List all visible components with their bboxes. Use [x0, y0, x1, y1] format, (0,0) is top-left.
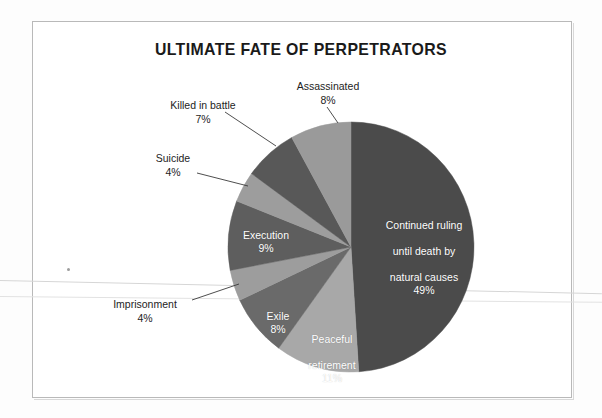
- slice-label-exile: Exile 8%: [252, 297, 304, 349]
- leader-line-imprisonment: [192, 284, 239, 300]
- slice-label-execution-line1: Execution: [243, 229, 289, 241]
- callout-label-imprisonment-name: Imprisonment: [113, 298, 177, 310]
- slice-label-peaceful-retirement: Peaceful retirement 11%: [293, 320, 371, 398]
- slice-value-execution: 9%: [228, 242, 304, 255]
- callout-label-assassinated: Assassinated 8%: [282, 80, 374, 107]
- callout-label-suicide-name: Suicide: [156, 152, 190, 164]
- slice-label-continued-ruling-line3: natural causes: [390, 271, 458, 283]
- callout-label-killed-in-battle: Killed in battle 7%: [147, 99, 259, 126]
- callout-value-imprisonment: 4%: [92, 312, 198, 326]
- callout-label-suicide: Suicide 4%: [132, 152, 214, 179]
- callout-label-imprisonment: Imprisonment 4%: [92, 298, 198, 325]
- slice-label-peaceful-retirement-line1: Peaceful: [312, 333, 353, 345]
- slice-label-continued-ruling-line1: Continued ruling: [386, 219, 462, 231]
- slice-label-peaceful-retirement-line2: retirement: [308, 359, 355, 371]
- slice-label-continued-ruling: Continued ruling until death by natural …: [366, 206, 482, 310]
- callout-value-killed-in-battle: 7%: [147, 113, 259, 127]
- slice-value-exile: 8%: [252, 323, 304, 336]
- callout-value-assassinated: 8%: [282, 94, 374, 108]
- pie-chart: Continued ruling until death by natural …: [0, 0, 602, 418]
- slice-label-exile-line1: Exile: [267, 310, 290, 322]
- slice-label-continued-ruling-line2: until death by: [393, 245, 455, 257]
- callout-label-assassinated-name: Assassinated: [297, 80, 359, 92]
- leader-line-assassinated: [327, 107, 338, 123]
- slice-value-continued-ruling: 49%: [366, 284, 482, 297]
- slice-value-peaceful-retirement: 11%: [293, 372, 371, 385]
- callout-label-killed-in-battle-name: Killed in battle: [170, 99, 235, 111]
- callout-value-suicide: 4%: [132, 166, 214, 180]
- page-canvas: ULTIMATE FATE OF PERPETRATORS Continued …: [0, 0, 602, 418]
- slice-label-execution: Execution 9%: [228, 216, 304, 268]
